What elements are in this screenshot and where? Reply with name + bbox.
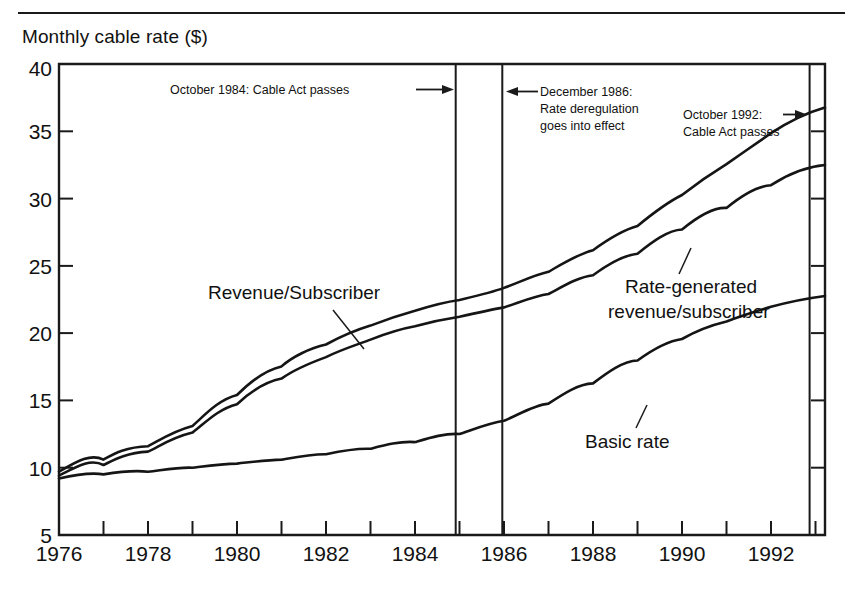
y-tick-label: 35 xyxy=(29,120,52,143)
y-tick-label: 10 xyxy=(29,457,52,480)
x-tick-label: 1992 xyxy=(748,542,795,565)
annotation-oct-1992-arrow-icon xyxy=(783,110,807,119)
annotation-oct-1984-arrow-icon xyxy=(416,85,454,94)
series-label-rate-generated-line2: revenue/subscriber xyxy=(608,301,770,322)
annotation-oct-1984-text: October 1984: Cable Act passes xyxy=(170,83,349,97)
x-tick-label: 1988 xyxy=(570,542,617,565)
x-tick-label: 1990 xyxy=(659,542,706,565)
x-tick-label: 1980 xyxy=(214,542,261,565)
x-axis-ticks xyxy=(59,521,816,535)
y-tick-label: 20 xyxy=(29,322,52,345)
leader-line-basic-rate xyxy=(636,405,647,428)
y-axis-ticks-right xyxy=(811,131,825,467)
cable-rate-figure: Monthly cable rate ($) 5 10 xyxy=(0,0,853,601)
annotation-dec-1986-line3: goes into effect xyxy=(540,119,625,133)
series-label-revenue-per-subscriber: Revenue/Subscriber xyxy=(208,282,381,303)
x-tick-label: 1982 xyxy=(303,542,350,565)
annotation-oct-1992-line2: Cable Act passes xyxy=(683,125,780,139)
x-axis-tick-labels: 1976 1978 1980 1982 1984 1986 1988 1990 … xyxy=(36,542,795,565)
series-line-basic-rate xyxy=(59,296,825,478)
x-tick-label: 1984 xyxy=(392,542,439,565)
y-tick-label: 30 xyxy=(29,188,52,211)
annotation-dec-1986-line2: Rate deregulation xyxy=(540,102,639,116)
y-tick-label: 40 xyxy=(29,57,52,80)
x-tick-label: 1976 xyxy=(36,542,83,565)
x-tick-label: 1978 xyxy=(125,542,172,565)
x-tick-label: 1986 xyxy=(481,542,528,565)
chart-plot-area: 5 10 15 20 25 30 35 40 xyxy=(0,0,853,601)
leader-line-rate-generated-revenue xyxy=(679,248,691,274)
y-axis-tick-labels: 5 10 15 20 25 30 35 40 xyxy=(29,57,52,547)
annotation-dec-1986-arrow-icon xyxy=(506,87,538,96)
annotation-dec-1986-line1: December 1986: xyxy=(540,85,632,99)
series-label-basic-rate: Basic rate xyxy=(585,431,669,452)
series-label-rate-generated-line1: Rate-generated xyxy=(625,276,757,297)
annotation-oct-1992-line1: October 1992: xyxy=(683,108,762,122)
y-tick-label: 15 xyxy=(29,389,52,412)
y-tick-label: 25 xyxy=(29,255,52,278)
